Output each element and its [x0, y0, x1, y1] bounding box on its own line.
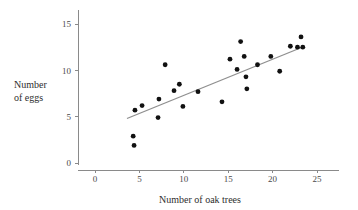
x-tick-label: 10	[179, 174, 189, 184]
data-point	[196, 89, 201, 94]
data-point	[140, 103, 145, 108]
y-tick-label: 0	[67, 158, 72, 168]
data-point	[172, 88, 177, 93]
x-tick-label: 20	[268, 174, 278, 184]
y-axis: 051015	[62, 10, 78, 168]
trend-line	[127, 46, 305, 118]
data-point	[255, 62, 260, 67]
data-point	[288, 44, 293, 49]
plot-canvas: 051015 0510152025 Number of oak trees Nu…	[0, 0, 358, 210]
data-point	[268, 54, 273, 59]
x-tick-label: 0	[93, 174, 98, 184]
data-point	[299, 35, 304, 40]
regression-line	[127, 46, 305, 118]
data-point	[295, 45, 300, 50]
data-point	[133, 108, 138, 113]
x-axis: 0510152025	[78, 170, 339, 184]
data-point	[156, 115, 161, 120]
data-point	[242, 54, 247, 59]
x-tick-label: 25	[313, 174, 323, 184]
data-point	[244, 86, 249, 91]
scatter-plot-figure: 051015 0510152025 Number of oak trees Nu…	[0, 0, 358, 210]
y-tick-label: 15	[62, 19, 72, 29]
data-points	[131, 35, 305, 148]
data-point	[277, 69, 282, 74]
y-axis-title-line1: Number	[14, 79, 47, 90]
data-point	[181, 104, 186, 109]
x-tick-label: 5	[137, 174, 142, 184]
data-point	[157, 97, 162, 102]
x-tick-label: 15	[224, 174, 234, 184]
data-point	[220, 99, 225, 104]
data-point	[132, 143, 137, 148]
data-point	[163, 62, 168, 67]
y-tick-label: 5	[67, 112, 72, 122]
data-point	[244, 74, 249, 79]
data-point	[238, 39, 243, 44]
data-point	[235, 67, 240, 72]
y-axis-title-line2: of eggs	[14, 92, 43, 103]
x-axis-title: Number of oak trees	[159, 194, 241, 205]
data-point	[228, 57, 233, 62]
data-point	[177, 82, 182, 87]
data-point	[131, 134, 136, 139]
y-tick-label: 10	[62, 66, 72, 76]
data-point	[300, 45, 305, 50]
